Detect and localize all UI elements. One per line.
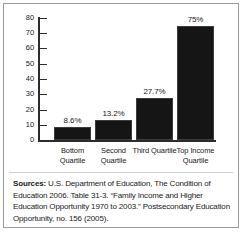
bar-third-quartile xyxy=(136,98,173,140)
bar-value-label: 8.6% xyxy=(52,116,93,125)
y-axis-tick-label: 0 xyxy=(10,136,34,144)
y-axis-tick-label: 80 xyxy=(10,14,34,22)
y-axis-tick xyxy=(40,79,47,80)
y-axis-tick xyxy=(40,18,47,19)
bar-value-label: 13.2% xyxy=(93,109,134,118)
y-axis-tick-label: 10 xyxy=(10,121,34,129)
bar-second-quartile xyxy=(95,120,132,140)
y-axis-tick xyxy=(40,140,47,141)
bar-chart: 80 70 60 50 40 30 20 10 0 8.6% 13.2% 27.… xyxy=(4,4,238,170)
y-axis-tick xyxy=(40,125,47,126)
section-divider xyxy=(9,172,233,173)
y-axis-tick xyxy=(40,110,47,111)
y-axis-tick-label: 40 xyxy=(10,75,34,83)
y-axis-tick xyxy=(40,94,47,95)
x-axis-line xyxy=(38,140,216,142)
bar-value-label: 27.7% xyxy=(134,87,175,96)
bar-bottom-quartile xyxy=(54,127,91,140)
y-axis-tick xyxy=(40,64,47,65)
bar-value-label: 75% xyxy=(175,15,216,24)
y-axis-tick xyxy=(40,33,47,34)
source-label: Sources: xyxy=(13,179,46,188)
y-axis-tick-label: 50 xyxy=(10,60,34,68)
bar-top-income-quartile xyxy=(177,26,214,140)
source-note: Sources: U.S. Department of Education, T… xyxy=(13,178,232,224)
x-axis-category-label: Top Income Quartile xyxy=(171,146,220,166)
y-axis-tick xyxy=(40,48,47,49)
y-axis-tick-label: 30 xyxy=(10,90,34,98)
source-text: U.S. Department of Education, The Condit… xyxy=(13,179,230,223)
figure-container: 80 70 60 50 40 30 20 10 0 8.6% 13.2% 27.… xyxy=(3,3,239,228)
y-axis-tick-label: 60 xyxy=(10,44,34,52)
y-axis-tick-label: 70 xyxy=(10,29,34,37)
y-axis-tick-label: 20 xyxy=(10,106,34,114)
